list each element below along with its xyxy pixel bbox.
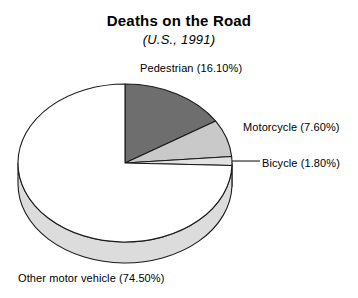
slice-label-other-motor-vehicle: Other motor vehicle (74.50%)	[18, 272, 164, 284]
slice-label-pedestrian: Pedestrian (16.10%)	[140, 62, 242, 74]
pie-chart-figure: Deaths on the Road (U.S., 1991) Pedestri…	[0, 0, 358, 298]
pie-top-face	[18, 84, 232, 242]
slice-label-bicycle: Bicycle (1.80%)	[262, 157, 340, 169]
pie-graphic	[0, 0, 358, 298]
slice-label-motorcycle: Motorcycle (7.60%)	[243, 121, 340, 133]
